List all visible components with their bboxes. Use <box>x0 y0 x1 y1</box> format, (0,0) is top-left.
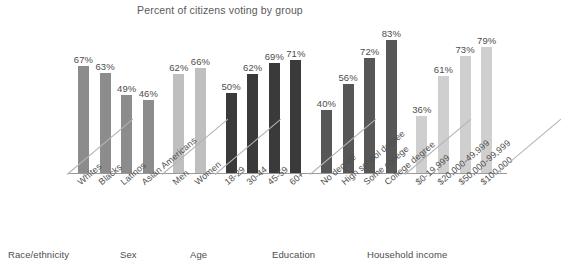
bar-value-label: 62% <box>243 62 262 73</box>
bar <box>247 74 258 174</box>
bar <box>269 63 280 174</box>
bar-group: 62% <box>247 60 258 174</box>
bar-value-label: 79% <box>477 35 496 46</box>
bar-value-label: 49% <box>117 83 136 94</box>
bar-value-label: 72% <box>360 46 379 57</box>
bar-value-label: 40% <box>317 98 336 109</box>
bar-value-label: 36% <box>412 104 431 115</box>
bar-value-label: 67% <box>74 54 93 65</box>
bar <box>195 68 206 174</box>
bar-value-label: 66% <box>191 56 210 67</box>
bar <box>100 73 111 175</box>
bar-value-label: 73% <box>455 44 474 55</box>
bar-value-label: 63% <box>95 61 114 72</box>
bar <box>290 60 301 174</box>
group-name-race-ethnicity: Race/ethnicity <box>8 249 69 260</box>
bar-value-label: 46% <box>139 88 158 99</box>
bar-group: 46% <box>143 86 154 174</box>
group-name-education: Education <box>272 249 315 260</box>
bar-value-label: 62% <box>169 62 188 73</box>
group-name-sex: Sex <box>120 249 137 260</box>
bar-value-label: 56% <box>338 72 357 83</box>
bar <box>121 95 132 174</box>
bar-value-label: 71% <box>286 48 305 59</box>
bar-group: 66% <box>195 54 206 174</box>
bar-group: 69% <box>269 49 280 174</box>
plot-area: 67%63%49%46%62%66%50%62%69%71%40%56%72%8… <box>0 18 516 174</box>
bar-value-label: 83% <box>382 28 401 39</box>
bar-value-label: 61% <box>434 64 453 75</box>
group-name-household-income: Household income <box>367 249 447 260</box>
group-name-age: Age <box>190 249 207 260</box>
bar-group: 63% <box>100 59 111 175</box>
bar-group: 71% <box>290 46 301 174</box>
chart-title: Percent of citizens voting by group <box>0 4 440 16</box>
bar-value-label: 50% <box>221 81 240 92</box>
bar-value-label: 69% <box>265 51 284 62</box>
